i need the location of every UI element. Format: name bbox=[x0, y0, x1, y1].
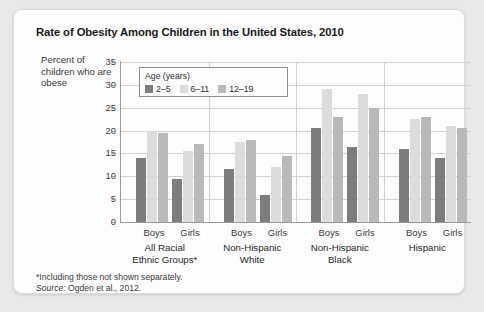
bar bbox=[435, 158, 445, 222]
bar bbox=[369, 108, 379, 222]
legend-item: 2–5 bbox=[145, 84, 171, 94]
legend-items: 2–56–1112–19 bbox=[145, 84, 282, 94]
footnote-asterisk-note: *Including those not shown separately. bbox=[36, 272, 183, 283]
x-group-label-line: Non-Hispanic bbox=[296, 242, 384, 254]
x-group-label-line: Non-Hispanic bbox=[209, 242, 297, 254]
x-sub-label: Girls bbox=[255, 227, 301, 238]
bar bbox=[158, 133, 168, 222]
y-tick-mark bbox=[112, 222, 116, 223]
x-group-label: Hispanic bbox=[384, 242, 472, 254]
y-tick-mark bbox=[112, 153, 116, 154]
bar bbox=[246, 140, 256, 222]
chart-card: Rate of Obesity Among Children in the Un… bbox=[13, 9, 465, 294]
bar bbox=[260, 195, 270, 222]
legend-label: 12–19 bbox=[229, 84, 253, 94]
legend-title: Age (years) bbox=[145, 71, 282, 81]
x-group-label-line: Ethnic Groups* bbox=[121, 254, 209, 266]
bar bbox=[271, 167, 281, 222]
x-group-label-line: All Racial bbox=[121, 242, 209, 254]
y-tick-mark bbox=[112, 176, 116, 177]
legend: Age (years) 2–56–1112–19 bbox=[139, 67, 288, 97]
x-group-label: Non-HispanicBlack bbox=[296, 242, 384, 265]
bar bbox=[333, 117, 343, 222]
legend-label: 2–5 bbox=[156, 84, 171, 94]
bar bbox=[322, 89, 332, 222]
x-sub-label: Girls bbox=[342, 227, 388, 238]
bar bbox=[311, 128, 321, 222]
x-group-label-line: Hispanic bbox=[384, 242, 472, 254]
y-tick-mark bbox=[112, 108, 116, 109]
footnote: *Including those not shown separately. S… bbox=[36, 272, 183, 293]
bar-subgroup bbox=[344, 62, 390, 222]
source-label: Source: bbox=[36, 283, 66, 293]
x-group-label: Non-HispanicWhite bbox=[209, 242, 297, 265]
y-tick-mark bbox=[112, 62, 116, 63]
x-group-label-line: White bbox=[209, 254, 297, 266]
bar bbox=[347, 147, 357, 222]
bar-subgroup bbox=[432, 62, 478, 222]
page-title: Rate of Obesity Among Children in the Un… bbox=[36, 26, 344, 38]
bar bbox=[224, 169, 234, 222]
legend-item: 12–19 bbox=[218, 84, 253, 94]
bar bbox=[136, 158, 146, 222]
legend-item: 6–11 bbox=[180, 84, 210, 94]
legend-swatch bbox=[180, 85, 188, 93]
x-sub-label: Girls bbox=[167, 227, 213, 238]
footnote-source: Source: Ogden et al., 2012. bbox=[36, 283, 183, 294]
bar bbox=[399, 149, 409, 222]
legend-swatch bbox=[145, 85, 153, 93]
x-group-label: All RacialEthnic Groups* bbox=[121, 242, 209, 265]
x-group-label-line: Black bbox=[296, 254, 384, 266]
y-tick-mark bbox=[112, 199, 116, 200]
bar bbox=[235, 142, 245, 222]
y-tick-mark bbox=[112, 85, 116, 86]
gridline bbox=[121, 222, 471, 223]
y-tick-mark bbox=[112, 131, 116, 132]
x-sub-label: Girls bbox=[430, 227, 476, 238]
bar bbox=[172, 179, 182, 222]
bar bbox=[147, 131, 157, 222]
bar bbox=[194, 144, 204, 222]
legend-swatch bbox=[218, 85, 226, 93]
y-axis-ticks: 05101520253035 bbox=[88, 62, 116, 222]
bar bbox=[183, 151, 193, 222]
bar bbox=[457, 128, 467, 222]
bar bbox=[358, 94, 368, 222]
bar bbox=[410, 119, 420, 222]
bar bbox=[282, 156, 292, 222]
source-text: Ogden et al., 2012. bbox=[66, 283, 142, 293]
legend-label: 6–11 bbox=[191, 84, 210, 94]
bar bbox=[446, 126, 456, 222]
bar bbox=[421, 117, 431, 222]
